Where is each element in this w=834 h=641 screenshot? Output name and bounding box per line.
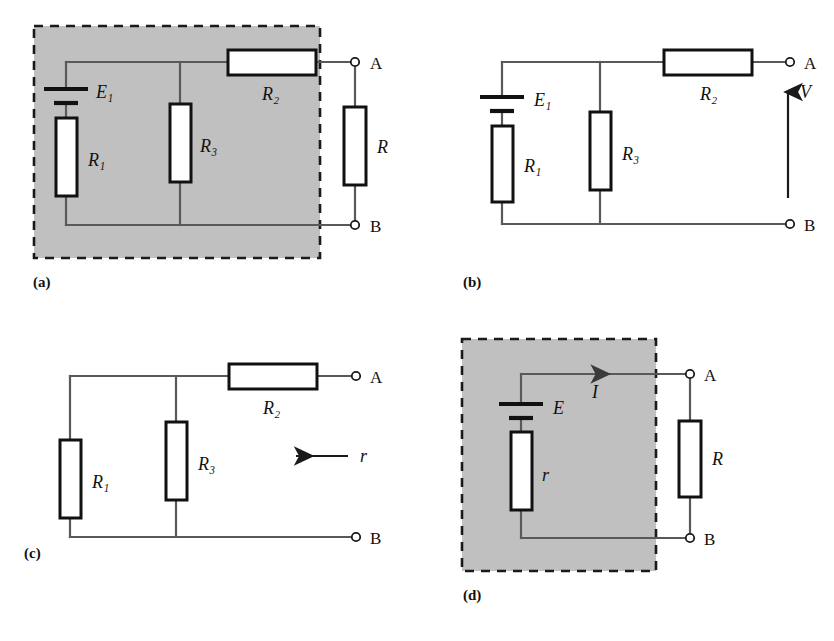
panel-c-resistor-r2 [229,364,317,389]
panel-a-terminal-a-node [351,58,359,66]
panel-c-resistor-r1 [60,440,81,518]
panel-caption-a: (a) [33,274,51,291]
label-b-terminal-B: B [804,216,815,235]
panel-b-battery [480,97,524,111]
panel-d-resistor-r [679,421,701,497]
panel-a-terminal-b-node [351,221,359,229]
label-b-terminal-A: A [804,54,817,73]
label-a-R3: R₃ [199,136,217,156]
panel-b-terminal-a-node [786,58,794,66]
label-c-terminal-A: A [370,368,383,387]
panel-a-resistor-r3 [170,104,191,182]
panel-a-resistor-r1 [56,118,77,196]
label-b-E1: E₁ [533,90,551,110]
panel-c [60,364,360,541]
label-d-terminal-A: A [704,366,717,385]
panel-b-wires [502,62,786,224]
label-c-R1: R₁ [91,472,109,492]
label-a-terminal-A: A [370,54,383,73]
label-c-R3: R₃ [197,454,215,474]
panel-caption-d: (d) [463,587,481,604]
panel-c-terminal-b-node [352,533,360,541]
label-d-I: I [591,382,599,402]
label-a-R: R [376,137,388,157]
label-a-terminal-B: B [370,217,381,236]
label-b-R2: R₂ [699,84,717,104]
panel-b-resistor-r2 [664,50,752,75]
label-b-R1: R₁ [523,156,541,176]
label-c-r: r [360,446,368,466]
circuit-svg: E₁ R₁ R₃ R₂ R A B E₁ R₁ R₃ R₂ V A B R₁ R… [0,0,834,641]
label-c-R2: R₂ [262,398,280,418]
panel-caption-c: (c) [24,545,41,562]
label-d-r: r [542,465,550,485]
label-d-R: R [711,449,723,469]
panel-caption-b: (b) [463,274,481,291]
panel-b-terminal-b-node [786,220,794,228]
panel-d-terminal-b-node [686,534,694,542]
label-d-E: E [552,398,564,418]
panel-b-resistor-r3 [590,112,611,190]
panel-d-terminal-a-node [686,370,694,378]
panel-b [480,50,794,228]
panel-c-terminal-a-node [352,372,360,380]
circuit-figure: E₁ R₁ R₃ R₂ R A B E₁ R₁ R₃ R₂ V A B R₁ R… [0,0,834,641]
panel-b-resistor-r1 [492,126,513,202]
label-b-R3: R₃ [621,144,639,164]
label-a-R2: R₂ [261,84,279,104]
label-b-V: V [800,82,813,102]
label-a-E1: E₁ [95,82,113,102]
panel-a-resistor-r2 [228,50,316,75]
panel-d [462,339,701,571]
panel-c-resistor-r3 [166,422,187,500]
panel-d-resistor-r-internal [511,432,532,510]
label-c-terminal-B: B [370,529,381,548]
label-d-terminal-B: B [704,530,715,549]
panel-a-resistor-r [344,107,366,185]
label-a-R1: R₁ [87,150,105,170]
